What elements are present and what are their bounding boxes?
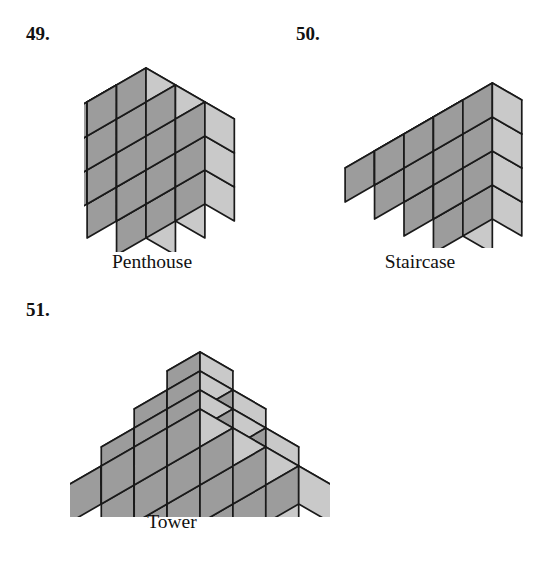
tower-illustration bbox=[70, 332, 330, 517]
penthouse-svg bbox=[84, 52, 274, 252]
cube-left-face-0 bbox=[345, 151, 374, 202]
figure-49-caption: Penthouse bbox=[72, 252, 232, 272]
tower-svg bbox=[70, 332, 330, 517]
staircase-svg bbox=[332, 48, 532, 248]
cube-front-face-29 bbox=[299, 466, 330, 517]
penthouse-illustration bbox=[84, 52, 274, 252]
figure-49-penthouse: 49. Penthouse bbox=[26, 24, 276, 284]
figure-50-staircase: 50. Staircase bbox=[296, 24, 536, 284]
cube-group bbox=[84, 68, 234, 252]
cube-group bbox=[345, 83, 522, 248]
figure-50-number: 50. bbox=[296, 24, 320, 43]
figure-50-caption: Staircase bbox=[340, 252, 500, 272]
cube-left-face-0 bbox=[70, 466, 101, 517]
cube-group bbox=[70, 352, 330, 517]
figure-49-number: 49. bbox=[26, 24, 50, 43]
figure-51-caption: Tower bbox=[92, 512, 252, 532]
staircase-illustration bbox=[332, 48, 532, 248]
figure-51-number: 51. bbox=[26, 300, 50, 319]
figure-51-tower: 51. Tower bbox=[26, 300, 346, 560]
